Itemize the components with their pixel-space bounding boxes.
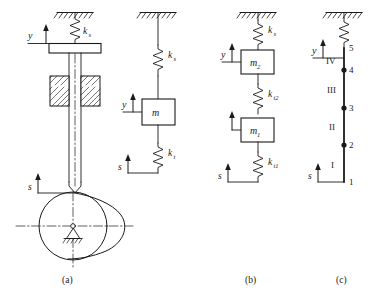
- label-spring-kt1-b: k: [268, 157, 273, 167]
- label-mass-m1-sub: 1: [257, 131, 260, 138]
- label-spring-kt1-b-sub: t1: [274, 162, 279, 169]
- node-3-label: 3: [349, 103, 354, 113]
- label-y-a: y: [27, 30, 33, 41]
- label-spring-ks-b-sub: s: [274, 30, 277, 37]
- spring-ks-c: [339, 18, 349, 48]
- label-s-a2: s: [118, 162, 122, 172]
- element-IV-label: IV: [326, 56, 336, 66]
- valve-spring-a: [70, 13, 80, 45]
- s-arrow-head-a2: [125, 154, 131, 161]
- label-spring-ks-a2-sub: s: [174, 55, 177, 62]
- label-s-b: s: [218, 171, 222, 181]
- s-arrow-head-c: [315, 163, 321, 170]
- ground-hatch-c: [323, 13, 362, 19]
- figure-container: y s k s y s k s k t m y s k s k t2 k t1 …: [0, 0, 377, 298]
- spring-ks-b: [253, 20, 263, 50]
- s-arrow-head-b: [225, 163, 231, 170]
- node-3-marker: [341, 105, 346, 110]
- caption-a: (a): [62, 275, 73, 286]
- spring-ks-a2: [153, 45, 163, 76]
- spring-kt1-b: [253, 152, 263, 182]
- label-spring-ks-a: k: [83, 26, 88, 36]
- s-arrow-head-a: [35, 173, 41, 180]
- engineering-diagram: y s k s y s k s k t m y s k s k t2 k t1 …: [0, 0, 377, 298]
- element-I-label: I: [331, 160, 334, 170]
- label-spring-kt-a2: k: [168, 148, 173, 158]
- y-arrow-head-a: [43, 24, 49, 31]
- y-arrow-head-a2: [130, 93, 136, 100]
- label-spring-ks-a2: k: [168, 50, 173, 60]
- label-mass-m: m: [152, 107, 159, 118]
- pivot-ground-hatch: [63, 239, 82, 244]
- label-y-c: y: [311, 45, 317, 56]
- node-2-label: 2: [349, 140, 354, 150]
- pivot-support-triangle: [67, 229, 80, 239]
- spring-kt2-b: [253, 84, 263, 114]
- label-y-a2: y: [121, 99, 127, 110]
- valve-retainer-plate: [49, 44, 101, 54]
- node-4-label: 4: [349, 65, 354, 75]
- y-arrow-head-b: [229, 43, 235, 50]
- y1-arrow-head-b: [229, 111, 235, 118]
- label-spring-kt-a2-sub: t: [174, 153, 176, 160]
- element-II-label: II: [329, 122, 335, 132]
- spring-kt-a2: [153, 143, 163, 173]
- node-5-label: 5: [349, 43, 354, 53]
- label-spring-kt2-b-sub: t2: [274, 94, 280, 101]
- ground-hatch-a: [54, 13, 93, 19]
- label-s-c: s: [308, 171, 312, 181]
- label-spring-ks-b: k: [268, 25, 273, 35]
- caption-c: (c): [336, 275, 347, 286]
- y-arrow-head-c: [320, 39, 326, 46]
- label-s-a: s: [28, 182, 32, 192]
- ground-hatch-a2: [137, 13, 176, 19]
- label-spring-kt2-b: k: [268, 89, 273, 99]
- ground-hatch-b: [237, 13, 276, 19]
- node-2-marker: [341, 142, 346, 147]
- camshaft-pivot: [71, 224, 76, 229]
- element-III-label: III: [327, 85, 336, 95]
- label-y-b: y: [220, 49, 226, 60]
- node-4-marker: [341, 67, 346, 72]
- node-1-label: 1: [349, 177, 354, 187]
- caption-b: (b): [245, 275, 256, 286]
- label-spring-ks-a-sub: s: [89, 31, 92, 38]
